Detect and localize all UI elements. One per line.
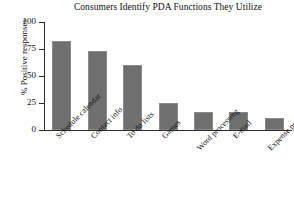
y-tick-label-25: 25 [27, 97, 36, 108]
y-tick-75: 75 [39, 49, 44, 50]
chart-title: Consumers Identify PDA Functions They Ut… [44, 2, 292, 12]
y-tick-50: 50 [39, 76, 44, 77]
y-tick-label-0: 0 [32, 124, 37, 135]
plot-area: 0 25 50 75 100 Schedule calendar Contact… [44, 22, 292, 130]
y-tick-label-100: 100 [23, 16, 37, 27]
y-tick-25: 25 [39, 103, 44, 104]
y-tick-label-50: 50 [27, 70, 36, 81]
y-tick-0: 0 [39, 130, 44, 131]
bar-chart: Consumers Identify PDA Functions They Ut… [0, 0, 294, 201]
y-tick-100: 100 [39, 22, 44, 23]
y-axis-line [44, 22, 45, 131]
bar [194, 112, 213, 130]
bar [265, 118, 284, 130]
y-tick-label-75: 75 [27, 43, 36, 54]
bar [52, 41, 71, 130]
